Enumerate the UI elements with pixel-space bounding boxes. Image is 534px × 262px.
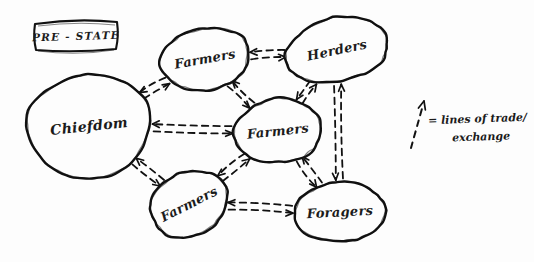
trade-link-herders-farmers-mid	[297, 81, 317, 104]
chiefdom-farmers-low-reverse	[136, 158, 164, 180]
diagram-canvas: ChiefdomFarmersHerdersFarmersFarmersFora…	[0, 0, 534, 262]
chiefdom-farmers-low-forward	[132, 164, 160, 186]
trade-link-herders-foragers	[333, 84, 345, 180]
node-foragers[interactable]	[295, 181, 387, 241]
node-farmers-top[interactable]	[159, 28, 248, 91]
farmers-low-foragers-reverse	[228, 200, 292, 206]
trade-link-chiefdom-farmers-low	[132, 158, 164, 186]
node-chiefdom[interactable]	[26, 74, 151, 179]
trade-link-farmers-mid-foragers	[297, 157, 322, 188]
chiefdom-farmers-mid-reverse	[153, 121, 232, 128]
node-herders[interactable]	[284, 17, 387, 83]
trade-link-farmers-top-farmers-mid	[228, 81, 255, 108]
trade-link-chiefdom-farmers-mid	[153, 121, 233, 136]
pre-state-tag-label: PRE - STATE	[32, 29, 120, 43]
herders-farmers-mid-forward	[297, 81, 311, 100]
herders-foragers-forward	[333, 86, 339, 180]
node-farmers-low[interactable]	[150, 171, 228, 238]
trade-link-farmers-low-foragers	[228, 200, 293, 216]
farmers-mid-farmers-low-reverse	[223, 159, 250, 181]
trade-link-farmers-mid-farmers-low	[218, 154, 250, 181]
farmers-top-farmers-mid-reverse	[232, 81, 254, 103]
farmers-top-farmers-mid-forward	[228, 86, 250, 108]
farmers-mid-farmers-low-forward	[218, 154, 245, 176]
legend-dashed-arrow-icon	[411, 101, 425, 148]
trade-link-chiefdom-farmers-top	[140, 78, 170, 99]
chiefdom-farmers-mid-forward	[154, 130, 233, 136]
farmers-mid-foragers-forward	[297, 161, 317, 187]
farmers-low-foragers-forward	[229, 210, 293, 216]
trade-link-farmers-top-herders	[250, 49, 285, 61]
herders-foragers-reverse	[339, 84, 345, 178]
legend-line-2: exchange	[452, 129, 510, 144]
farmers-mid-foragers-reverse	[302, 157, 322, 183]
herders-farmers-mid-reverse	[303, 84, 317, 103]
